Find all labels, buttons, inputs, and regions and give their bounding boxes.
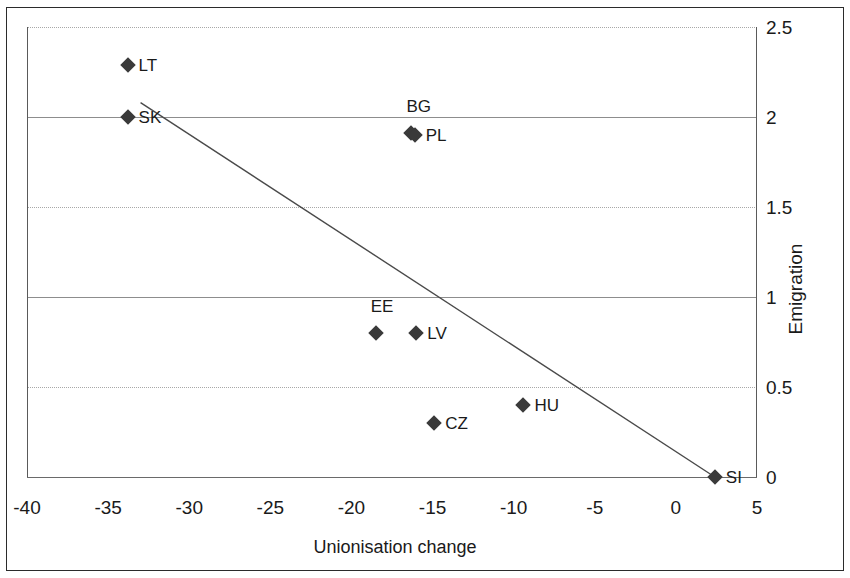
- y-tick-1.5: 1.5: [766, 198, 792, 217]
- x-tick-0: 0: [671, 498, 682, 517]
- x-tick-neg10: -10: [500, 498, 527, 517]
- x-tick-neg15: -15: [419, 498, 446, 517]
- x-tick-neg25: -25: [257, 498, 284, 517]
- chart-figure: LTSKBGPLEELVHUCZSI 00.511.522.5 Emigrati…: [0, 0, 850, 578]
- x-tick-5: 5: [752, 498, 763, 517]
- data-point-label-lt: LT: [139, 56, 158, 73]
- gridline-0: [27, 477, 757, 478]
- y-axis-title: Emigration: [786, 244, 808, 335]
- x-tick-neg35: -35: [94, 498, 121, 517]
- data-point-label-hu: HU: [534, 397, 559, 414]
- data-point-label-ee: EE: [371, 298, 394, 315]
- data-point-label-lv: LV: [427, 325, 447, 342]
- x-tick-neg20: -20: [338, 498, 365, 517]
- trendline: [27, 27, 757, 477]
- data-point-label-cz: CZ: [445, 415, 468, 432]
- y-tick-1: 1: [766, 288, 777, 307]
- x-axis-title: Unionisation change: [0, 537, 790, 558]
- data-point-label-sk: SK: [139, 109, 162, 126]
- data-point-label-si: SI: [726, 469, 742, 486]
- plot-area: LTSKBGPLEELVHUCZSI: [27, 27, 757, 477]
- data-point-label-bg: BG: [406, 98, 431, 115]
- y-tick-0.5: 0.5: [766, 378, 792, 397]
- y-tick-2: 2: [766, 108, 777, 127]
- x-tick-neg40: -40: [13, 498, 40, 517]
- x-tick-neg5: -5: [586, 498, 603, 517]
- x-tick-neg30: -30: [175, 498, 202, 517]
- data-point-label-pl: PL: [426, 127, 447, 144]
- y-tick-0: 0: [766, 468, 777, 487]
- y-tick-2.5: 2.5: [766, 18, 792, 37]
